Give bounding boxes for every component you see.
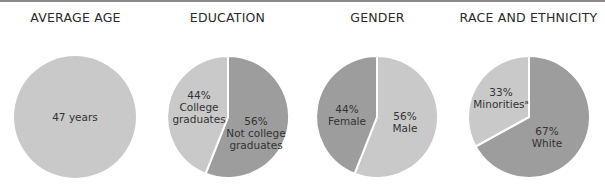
slice-label-pct: 56%: [393, 110, 416, 122]
slice-label-pct: 44%: [335, 103, 358, 115]
panel-gender: GENDER 44% Female 56% Male: [302, 0, 453, 195]
slice-label-line: graduates: [172, 113, 225, 125]
panel-education: EDUCATION 44% College graduates 56% Not …: [152, 0, 303, 195]
pie-label: 47 years: [52, 111, 98, 123]
panel-average-age: AVERAGE AGE 47 years: [0, 0, 151, 195]
slice-label-pct: 44%: [187, 89, 210, 101]
slice-label-line: Male: [393, 122, 418, 134]
slice-label-line: graduates: [229, 139, 282, 151]
slice-label-line: Minoritiesᵃ: [473, 98, 528, 110]
slice-label-line: Not college: [226, 127, 285, 139]
slice-label-pct: 67%: [535, 125, 558, 137]
slice-label-line: Female: [328, 115, 366, 127]
panel-race-ethnicity: RACE AND ETHNICITY 33% Minoritiesᵃ 67% W…: [453, 0, 604, 195]
slice-label-line: College: [179, 101, 218, 113]
pie-chart-gender: 44% Female 56% Male: [302, 0, 453, 195]
slice-label-line: White: [532, 137, 563, 149]
pie-chart-average-age: 47 years: [0, 0, 151, 195]
pie-chart-race-ethnicity: 33% Minoritiesᵃ 67% White: [453, 0, 604, 195]
slice-label-pct: 33%: [489, 86, 512, 98]
pie-chart-education: 44% College graduates 56% Not college gr…: [152, 0, 303, 195]
slice-label-pct: 56%: [244, 115, 267, 127]
